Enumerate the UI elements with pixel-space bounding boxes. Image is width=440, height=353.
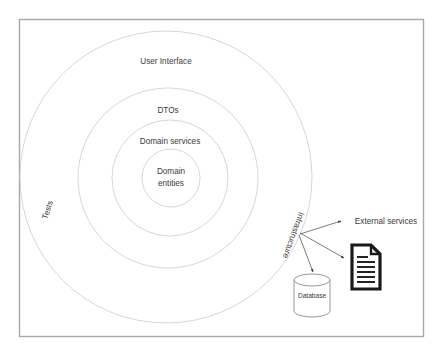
ring-domain-entities	[142, 149, 200, 207]
connector-to-external-services	[300, 221, 341, 234]
onion-architecture-diagram: User Interface DTOs Domain services Doma…	[0, 0, 440, 353]
ring-label-domain-entities-line1: Domain	[157, 167, 186, 176]
label-infrastructure: Infrastructure	[281, 211, 306, 260]
ring-label-user-interface: User Interface	[140, 57, 192, 66]
node-label-external-services: External services	[355, 217, 417, 226]
label-tests: Tests	[40, 199, 54, 220]
connector-to-database	[299, 235, 313, 272]
ring-label-domain-services: Domain services	[140, 137, 201, 146]
document-icon	[352, 245, 380, 289]
diagram-canvas: User Interface DTOs Domain services Doma…	[0, 0, 440, 353]
node-label-database: Database	[298, 292, 327, 299]
ring-user-interface	[20, 31, 312, 323]
ring-label-dtos: DTOs	[157, 106, 178, 115]
ring-label-domain-entities-line2: entities	[158, 179, 184, 188]
